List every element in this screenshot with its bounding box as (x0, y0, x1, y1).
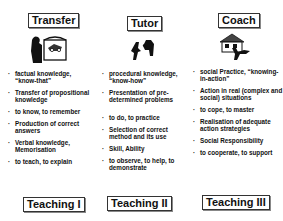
column-tutor: Tutor procedural knowledge, “know-how” P… (95, 0, 187, 221)
list-item: to do, to practice (102, 114, 188, 121)
list-item: Presentation of pre-determined problems (102, 89, 188, 103)
list-item: to cooperate, to support (193, 149, 283, 156)
list-item: Production of correct answers (8, 120, 94, 134)
coach-with-house-icon (218, 32, 254, 62)
column-title-transfer: Transfer (28, 13, 79, 28)
footer-teaching-2: Teaching II (107, 196, 172, 211)
list-item: Verbal knowledge, Memorisation (8, 139, 94, 153)
list-item: Skill, Ability (102, 145, 188, 152)
list-item: to observe, to help, to demonstrate (102, 157, 188, 171)
list-item: Action in real (complex and social) situ… (193, 87, 283, 101)
list-item: Social Responsibility (193, 137, 283, 144)
list-item: Selection of correct method and its use (102, 126, 188, 140)
list-item: Realisation of adequate action strategie… (193, 118, 283, 132)
teacher-at-board-icon (28, 34, 70, 64)
list-item: procedural knowledge, “know-how” (102, 70, 188, 84)
transfer-list: factual knowledge, “know-that” Transfer … (8, 70, 94, 170)
footer-teaching-3: Teaching III (202, 195, 270, 210)
column-title-tutor: Tutor (127, 16, 162, 31)
column-transfer: Transfer factual knowledge, “know-that” … (0, 0, 95, 221)
list-item: social Practice, “knowing-in-action” (193, 68, 283, 82)
tutor-and-learner-icon (128, 38, 158, 62)
list-item: to cope, to master (193, 106, 283, 113)
column-title-coach: Coach (218, 13, 260, 28)
list-item: Transfer of propositional knowledge (8, 89, 94, 103)
list-item: to know, to remember (8, 108, 94, 115)
list-item: factual knowledge, “know-that” (8, 70, 94, 84)
column-coach: Coach social Practice, “knowing-in-actio… (185, 0, 283, 221)
tutor-list: procedural knowledge, “know-how” Present… (102, 70, 188, 176)
coach-list: social Practice, “knowing-in-action” Act… (193, 68, 283, 161)
footer-teaching-1: Teaching I (23, 197, 85, 212)
list-item: to teach, to explain (8, 158, 94, 165)
